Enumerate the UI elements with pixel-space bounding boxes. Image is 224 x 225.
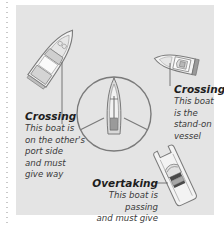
annotation-line: This boat [174,96,220,108]
annotation-line: and must give way [78,213,158,225]
catamaran-icon [153,144,198,207]
annotation-line: This boat is [25,123,85,135]
annotation-line: give way [25,169,85,181]
motorboat-icon [153,51,199,76]
annotation-overtaking: Overtaking This boat is passing and must… [78,177,158,225]
annotation-title: Overtaking [78,177,158,190]
annotation-title: Crossing [174,83,220,96]
annotation-line: port side [25,146,85,158]
motorboat-icon [26,24,81,90]
annotation-crossing-give-way: Crossing This boat is on the other's por… [25,110,85,181]
annotation-line: on the other's [25,135,85,147]
sailboat-icon [107,78,121,134]
annotation-line: vessel [174,131,220,143]
annotation-line: and must [25,158,85,170]
annotation-line: is the [174,108,220,120]
annotation-line: This boat is passing [78,190,158,213]
annotation-title: Crossing [25,110,85,123]
annotation-line: stand-on [174,119,220,131]
annotation-crossing-stand-on: Crossing This boat is the stand-on vesse… [174,83,220,142]
